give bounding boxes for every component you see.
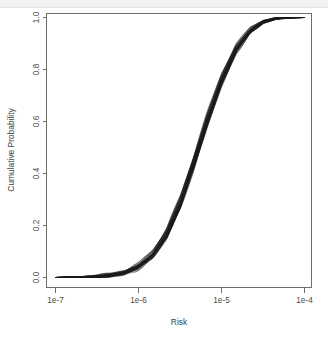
y-tick-label-5: 1.0 (32, 11, 41, 23)
y-tick-label-1: 0.2 (32, 219, 41, 231)
y-axis-ticks (43, 18, 47, 278)
cdf-line (56, 18, 305, 278)
cdf-line (56, 18, 305, 278)
cdf-line (56, 18, 305, 278)
cdf-line (56, 17, 305, 277)
cdf-line (56, 17, 305, 277)
cdf-line (56, 18, 305, 278)
cdf-line (56, 18, 305, 278)
cdf-line (56, 17, 305, 277)
cdf-line (56, 18, 305, 278)
cdf-line (56, 18, 305, 278)
y-axis-title: Cumulative Probability (6, 108, 16, 192)
figure-root: 1.0 0.8 0.6 0.4 0.2 0.0 1e-7 1e-6 1e-5 1… (0, 0, 328, 338)
cdf-line-bundle (56, 17, 305, 277)
y-tick-label-4: 0.8 (32, 63, 41, 75)
cdf-line (56, 18, 305, 278)
x-axis-tick-labels: 1e-7 1e-6 1e-5 1e-4 (47, 296, 313, 305)
cdf-line (56, 18, 305, 278)
cdf-line (56, 17, 305, 277)
risk-cdf-plot: 1.0 0.8 0.6 0.4 0.2 0.0 1e-7 1e-6 1e-5 1… (0, 0, 328, 338)
cdf-line (56, 18, 305, 278)
y-tick-label-2: 0.4 (32, 167, 41, 179)
y-tick-label-0: 0.0 (32, 271, 41, 283)
x-tick-label-1: 1e-6 (130, 296, 147, 305)
cdf-line (56, 18, 305, 278)
cdf-line (56, 18, 305, 278)
cdf-line (56, 17, 305, 277)
x-tick-label-2: 1e-5 (213, 296, 230, 305)
x-tick-label-3: 1e-4 (296, 296, 313, 305)
cdf-line (56, 18, 305, 278)
cdf-line (56, 18, 305, 278)
cdf-line (56, 17, 305, 277)
cdf-line (56, 18, 305, 278)
cdf-line (56, 18, 305, 278)
cdf-line (56, 18, 305, 278)
y-tick-label-3: 0.6 (32, 115, 41, 127)
cdf-line (56, 18, 305, 278)
cdf-line (56, 17, 305, 277)
cdf-line (56, 18, 305, 278)
cdf-line (56, 17, 305, 277)
cdf-line (56, 18, 305, 278)
cdf-line (56, 18, 305, 278)
cdf-line (56, 18, 305, 278)
y-axis-tick-labels: 1.0 0.8 0.6 0.4 0.2 0.0 (32, 11, 41, 283)
x-axis-title: Risk (171, 317, 188, 327)
cdf-line (56, 18, 305, 278)
cdf-line (56, 18, 305, 278)
cdf-line (56, 17, 305, 277)
cdf-line (56, 17, 305, 277)
cdf-line (56, 18, 305, 278)
cdf-line (56, 17, 305, 277)
plot-frame (47, 14, 312, 288)
cdf-line (56, 17, 305, 277)
cdf-line (56, 17, 305, 277)
x-axis-ticks (56, 288, 305, 293)
x-tick-label-0: 1e-7 (47, 296, 64, 305)
cdf-line (56, 18, 305, 278)
cdf-line-median (56, 18, 305, 278)
cdf-line (56, 18, 305, 278)
